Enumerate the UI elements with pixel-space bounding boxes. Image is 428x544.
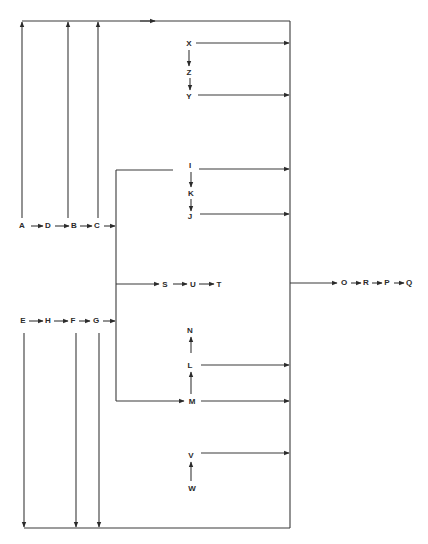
node-K: K xyxy=(188,189,194,198)
bus-lines xyxy=(22,21,290,528)
node-Q: Q xyxy=(406,278,412,287)
downward-feeds xyxy=(24,333,99,527)
group-XZY xyxy=(189,43,289,95)
node-G: G xyxy=(93,316,99,325)
node-B: B xyxy=(71,221,77,230)
node-P: P xyxy=(384,278,390,287)
node-Y: Y xyxy=(186,92,192,101)
node-T: T xyxy=(217,280,222,289)
node-J: J xyxy=(188,212,192,221)
upward-feeds xyxy=(22,22,98,218)
node-O: O xyxy=(341,278,347,287)
group-IKJ xyxy=(191,169,289,214)
node-A: A xyxy=(19,221,25,230)
node-F: F xyxy=(71,316,76,325)
node-D: D xyxy=(45,221,51,230)
node-U: U xyxy=(190,280,196,289)
node-L: L xyxy=(188,361,193,370)
node-W: W xyxy=(188,484,196,493)
node-S: S xyxy=(162,280,168,289)
node-V: V xyxy=(188,451,194,460)
node-R: R xyxy=(363,278,369,287)
node-C: C xyxy=(94,221,100,230)
node-X: X xyxy=(186,39,192,48)
inner-branches xyxy=(116,170,184,401)
node-I: I xyxy=(189,161,191,170)
group-NLM xyxy=(191,337,289,401)
node-N: N xyxy=(187,326,193,335)
group-VW xyxy=(191,453,289,481)
node-M: M xyxy=(189,397,196,406)
node-Z: Z xyxy=(187,68,192,77)
flow-diagram: A D B C E H F G X Z Y I K J S U T N L M … xyxy=(0,0,428,544)
node-labels: A D B C E H F G X Z Y I K J S U T N L M … xyxy=(19,39,412,493)
node-H: H xyxy=(45,316,51,325)
node-E: E xyxy=(20,316,26,325)
